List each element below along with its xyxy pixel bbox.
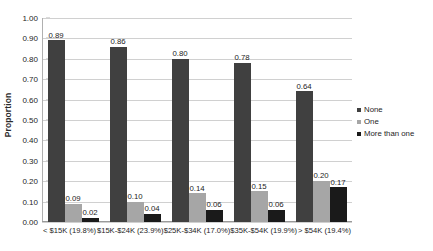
gridline xyxy=(42,222,352,223)
bar-slot: 0.02 xyxy=(82,18,99,222)
bar[interactable]: 0.80 xyxy=(172,59,189,222)
bar-group-bars: 0.860.100.04 xyxy=(104,18,166,222)
bar[interactable]: 0.10 xyxy=(127,202,144,222)
bar-chart: Proportion 1.000.900.800.700.600.500.400… xyxy=(0,0,433,251)
bar[interactable]: 0.86 xyxy=(110,47,127,222)
y-axis-tick-label: 0.60 xyxy=(8,95,38,104)
bar-group: 0.890.090.02 xyxy=(42,18,104,222)
x-axis-tick-labels: < $15K (19.8%)$15K-$24K (23.9%)$25K-$34K… xyxy=(42,226,352,235)
legend-swatch-icon xyxy=(357,132,361,136)
bar[interactable]: 0.09 xyxy=(65,204,82,222)
bar[interactable]: 0.64 xyxy=(296,91,313,222)
bar-value-label: 0.02 xyxy=(82,209,97,217)
bar-value-label: 0.15 xyxy=(251,183,266,191)
bar-group: 0.860.100.04 xyxy=(104,18,166,222)
bar-group-bars: 0.640.200.17 xyxy=(290,18,352,222)
bar[interactable]: 0.04 xyxy=(144,214,161,222)
x-axis-tick-label: $15K-$24K (23.9%) xyxy=(97,226,164,235)
bar-slot: 0.64 xyxy=(296,18,313,222)
bar[interactable]: 0.20 xyxy=(313,181,330,222)
bar-slot: 0.04 xyxy=(144,18,161,222)
bar-value-label: 0.64 xyxy=(296,83,311,91)
bar-value-label: 0.86 xyxy=(110,38,125,46)
bar-value-label: 0.10 xyxy=(127,193,142,201)
y-axis-tick-label: 0.20 xyxy=(8,177,38,186)
y-axis-tick-label: 0.30 xyxy=(8,156,38,165)
bar[interactable]: 0.15 xyxy=(251,191,268,222)
legend-label: One xyxy=(364,118,379,126)
bar-value-label: 0.14 xyxy=(189,185,204,193)
bar-slot: 0.09 xyxy=(65,18,82,222)
bar-slot: 0.17 xyxy=(330,18,347,222)
bar[interactable]: 0.06 xyxy=(268,210,285,222)
bar-group: 0.640.200.17 xyxy=(290,18,352,222)
bar-value-label: 0.78 xyxy=(234,54,249,62)
legend-item[interactable]: None xyxy=(357,104,433,115)
y-axis-tick-label: 1.00 xyxy=(8,14,38,23)
y-axis-tick-label: 0.80 xyxy=(8,54,38,63)
y-axis-tick-label: 0.90 xyxy=(8,34,38,43)
x-axis-tick-label: < $15K (19.8%) xyxy=(42,226,97,235)
bar-slot: 0.10 xyxy=(127,18,144,222)
bar[interactable]: 0.14 xyxy=(189,193,206,222)
x-axis-tick-label: $35K-$54K (19.9%) xyxy=(230,226,297,235)
bar-value-label: 0.04 xyxy=(144,205,159,213)
bar-value-label: 0.09 xyxy=(65,195,80,203)
bar-group: 0.780.150.06 xyxy=(228,18,290,222)
y-axis-tick-label: 0.00 xyxy=(8,218,38,227)
bar[interactable]: 0.06 xyxy=(206,210,223,222)
bar-slot: 0.06 xyxy=(268,18,285,222)
bar-value-label: 0.06 xyxy=(268,201,283,209)
y-axis-tick-label: 0.50 xyxy=(8,116,38,125)
bar-group-bars: 0.800.140.06 xyxy=(166,18,228,222)
legend-item[interactable]: One xyxy=(357,116,433,127)
bar-slot: 0.06 xyxy=(206,18,223,222)
bar-slot: 0.14 xyxy=(189,18,206,222)
bar-slot: 0.89 xyxy=(48,18,65,222)
y-axis-tick-label: 0.40 xyxy=(8,136,38,145)
bar-slot: 0.80 xyxy=(172,18,189,222)
bar-group-bars: 0.890.090.02 xyxy=(42,18,104,222)
bar-value-label: 0.06 xyxy=(206,201,221,209)
bar-groups: 0.890.090.020.860.100.040.800.140.060.78… xyxy=(42,18,352,222)
bar-value-label: 0.89 xyxy=(48,32,63,40)
bar-group-bars: 0.780.150.06 xyxy=(228,18,290,222)
bar-slot: 0.86 xyxy=(110,18,127,222)
y-axis-tick-labels: 1.000.900.800.700.600.500.400.300.200.10… xyxy=(8,18,38,222)
legend-swatch-icon xyxy=(357,108,361,112)
plot-area: 0.890.090.020.860.100.040.800.140.060.78… xyxy=(42,18,352,222)
bar[interactable]: 0.78 xyxy=(234,63,251,222)
bar-group: 0.800.140.06 xyxy=(166,18,228,222)
legend-label: None xyxy=(364,106,383,114)
bar-value-label: 0.17 xyxy=(330,179,345,187)
y-axis-tick-label: 0.70 xyxy=(8,75,38,84)
bar[interactable]: 0.17 xyxy=(330,187,347,222)
x-axis-tick-label: > $54K (19.4%) xyxy=(297,226,352,235)
bar-slot: 0.20 xyxy=(313,18,330,222)
legend: NoneOneMore than one xyxy=(357,104,433,140)
bar-slot: 0.78 xyxy=(234,18,251,222)
legend-item[interactable]: More than one xyxy=(357,128,433,139)
legend-swatch-icon xyxy=(357,120,361,124)
y-axis-tick-label: 0.10 xyxy=(8,197,38,206)
legend-label: More than one xyxy=(364,130,414,138)
bar-slot: 0.15 xyxy=(251,18,268,222)
bar[interactable]: 0.89 xyxy=(48,40,65,222)
bar-value-label: 0.80 xyxy=(172,50,187,58)
bar-value-label: 0.20 xyxy=(313,172,328,180)
bar[interactable]: 0.02 xyxy=(82,218,99,222)
x-axis-tick-label: $25K-$34K (17.0%) xyxy=(164,226,231,235)
